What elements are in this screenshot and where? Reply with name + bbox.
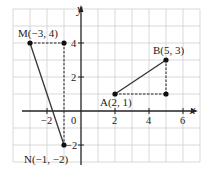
coordinate-plane: x y −2 0 2 4 6 4 2 −2 M(−3, 4) N(−1, −2)…	[0, 0, 204, 172]
x-axis-label: x	[189, 103, 196, 117]
x-tick-label: 4	[146, 115, 152, 126]
y-axis-label: y	[76, 2, 83, 16]
point-N	[61, 142, 66, 147]
point-M	[27, 40, 32, 45]
corner-point	[61, 40, 66, 45]
x-tick-label: 2	[112, 115, 117, 126]
point-M-label: M(−3, 4)	[18, 27, 58, 40]
point-N-label: N(−1, −2)	[24, 153, 69, 166]
corner-point	[163, 91, 168, 96]
origin-label: 0	[71, 115, 76, 126]
point-A-label: A(2, 1)	[100, 96, 132, 109]
point-B-label: B(5, 3)	[153, 44, 185, 57]
y-tick-label: −2	[66, 140, 77, 151]
y-tick-label: 2	[71, 72, 76, 83]
point-B	[163, 57, 168, 62]
y-tick-label: 4	[71, 38, 77, 49]
x-tick-label: 6	[180, 115, 185, 126]
x-tick-label: −2	[41, 115, 52, 126]
